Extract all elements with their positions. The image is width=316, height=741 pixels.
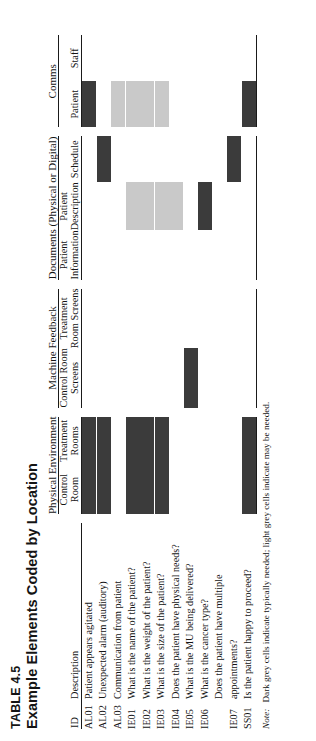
column-header-patient: Patient <box>59 81 82 127</box>
cell-mark-light <box>126 182 140 230</box>
matrix-cell-control-room <box>198 465 212 514</box>
cell-mark-none <box>111 348 125 407</box>
matrix-cell-control-room-screens <box>81 348 96 407</box>
column-gap-5 <box>81 280 96 289</box>
column-header-row: ID Description ControlRoom TreatmentRoom… <box>59 35 82 729</box>
matrix-cell-control-room-screens <box>212 348 241 407</box>
table-row: IE06What is the cancer type? <box>198 35 212 729</box>
row-description: What is the MU being delivered? <box>183 523 197 699</box>
column-gap-1 <box>154 514 168 523</box>
cell-mark-none <box>198 465 212 514</box>
cell-mark-none <box>169 136 183 182</box>
row-id: IE05 <box>183 699 197 729</box>
matrix-cell-patient-description <box>169 182 183 230</box>
cell-mark-dark <box>242 81 256 127</box>
row-description: Does the patient have multipleappointmen… <box>212 523 241 699</box>
column-gap-1 <box>183 514 197 523</box>
matrix-cell-treatment-rooms <box>81 417 96 466</box>
cell-mark-none <box>242 230 256 279</box>
cell-mark-none <box>184 417 198 466</box>
cell-mark-none <box>227 230 241 279</box>
label-line-2: Room Screens <box>69 289 80 349</box>
rule-segment <box>256 35 257 81</box>
matrix-cell-patient-description <box>111 182 125 230</box>
matrix-cell-treatment-rooms <box>241 417 255 466</box>
cell-mark-none <box>82 348 96 407</box>
column-gap-5 <box>198 280 212 289</box>
column-gap-3 <box>140 408 154 417</box>
gap-3b <box>59 280 82 289</box>
column-gap-5 <box>241 280 255 289</box>
table-body: AL01Patient appears agitatedAL02Unexpect… <box>81 35 256 729</box>
cell-mark-none <box>227 348 241 407</box>
matrix-cell-control-room <box>140 465 154 514</box>
row-id: AL01 <box>81 699 96 729</box>
column-gap-8 <box>183 127 197 136</box>
matrix-cell-schedule <box>183 136 197 182</box>
matrix-cell-patient-information <box>140 230 154 279</box>
matrix-cell-patient <box>169 81 183 127</box>
cell-mark-none <box>97 81 111 127</box>
cell-mark-none <box>227 465 241 514</box>
cell-mark-none <box>198 35 212 81</box>
table-row: IE07Does the patient have multipleappoin… <box>212 35 241 729</box>
row-description: Does the patient have physical needs? <box>169 523 183 699</box>
cell-mark-dark <box>242 465 256 514</box>
matrix-cell-staff <box>154 35 168 81</box>
label-line-1: Staff <box>69 48 80 68</box>
cell-mark-none <box>111 289 125 349</box>
cell-mark-none <box>184 81 198 127</box>
cell-mark-none <box>242 289 256 349</box>
column-gap-1 <box>198 514 212 523</box>
matrix-cell-patient <box>183 81 197 127</box>
rule-segment <box>256 280 257 289</box>
cell-mark-none <box>82 35 96 81</box>
column-gap-5 <box>212 280 241 289</box>
matrix-cell-schedule <box>154 136 168 182</box>
column-gap-3 <box>81 408 96 417</box>
matrix-cell-staff <box>212 35 241 81</box>
matrix-cell-patient <box>241 81 255 127</box>
cell-mark-none <box>198 417 212 466</box>
cell-mark-none <box>97 289 111 349</box>
column-header-id: ID <box>59 699 82 729</box>
cell-mark-none <box>155 348 169 407</box>
cell-mark-none <box>169 348 183 407</box>
matrix-cell-patient-description <box>96 182 110 230</box>
row-id: AL02 <box>96 699 110 729</box>
rule-segment <box>256 699 257 729</box>
matrix-cell-treatment-rooms <box>183 417 197 466</box>
gap-3 <box>46 280 59 289</box>
matrix-cell-control-room <box>125 465 139 514</box>
label-line-2: Screens <box>69 362 80 394</box>
cell-mark-none <box>126 348 140 407</box>
matrix-cell-control-room <box>96 465 110 514</box>
column-header-description: Description <box>59 523 82 699</box>
cell-mark-none <box>140 35 154 81</box>
group-header-blank-id <box>46 699 59 729</box>
row-id: IE07 <box>212 699 241 729</box>
matrix-cell-schedule <box>198 136 212 182</box>
cell-mark-none <box>198 348 212 407</box>
table-title: Example Elements Coded by Location <box>24 10 41 729</box>
matrix-cell-patient <box>111 81 125 127</box>
gap-1b <box>59 514 82 523</box>
column-gap-5 <box>169 280 183 289</box>
cell-mark-none <box>169 81 183 127</box>
cell-mark-light <box>140 81 154 127</box>
cell-mark-none <box>140 348 154 407</box>
matrix-cell-staff <box>241 35 255 81</box>
cell-mark-none <box>126 35 140 81</box>
matrix-cell-staff <box>125 35 139 81</box>
cell-mark-none <box>155 136 169 182</box>
table-row: IE05What is the MU being delivered? <box>183 35 197 729</box>
row-description: Patient appears agitated <box>81 523 96 699</box>
cell-mark-none <box>140 289 154 349</box>
gap-2 <box>46 408 59 417</box>
matrix-cell-treatment-room-screens <box>96 289 110 349</box>
cell-mark-none <box>111 136 125 182</box>
rule-segment <box>256 348 257 407</box>
cell-mark-none <box>82 230 96 279</box>
table-bottom-rule <box>256 35 257 729</box>
matrix-cell-control-room-screens <box>111 348 125 407</box>
